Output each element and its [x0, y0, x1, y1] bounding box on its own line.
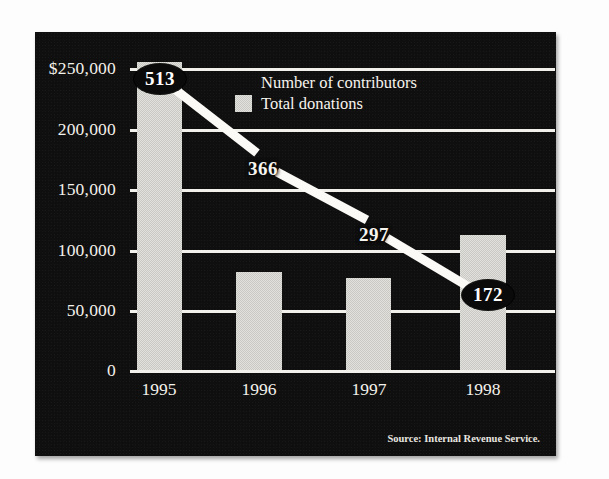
- plot-area: $250,000 200,000 150,000 100,000 50,000 …: [35, 32, 556, 456]
- legend-label-contributors: Number of contributors: [261, 72, 417, 93]
- chart-panel: $250,000 200,000 150,000 100,000 50,000 …: [35, 32, 556, 456]
- y-axis-tick-0: 0: [35, 360, 116, 381]
- bar-1996: [236, 272, 282, 370]
- y-axis-tick-250000: $250,000: [35, 58, 116, 79]
- y-axis-tick-50000: 50,000: [35, 300, 116, 321]
- point-label-1998: 172: [462, 280, 514, 310]
- legend-swatch-donations: [235, 95, 252, 112]
- legend-entry-donations: Total donations: [235, 93, 417, 114]
- x-axis-tick-1997: 1997: [324, 379, 414, 400]
- legend-spacer: [235, 74, 252, 91]
- gridline-150000: [130, 189, 555, 192]
- bar-1997: [346, 278, 391, 370]
- y-axis-tick-200000: 200,000: [35, 119, 116, 140]
- y-axis-tick-100000: 100,000: [35, 240, 116, 261]
- gridline-0: [130, 370, 555, 373]
- page-canvas: $250,000 200,000 150,000 100,000 50,000 …: [0, 0, 609, 479]
- point-label-1997: 297: [359, 224, 389, 246]
- x-axis-tick-1995: 1995: [114, 379, 204, 400]
- legend-entry-contributors: Number of contributors: [235, 72, 417, 93]
- y-axis-tick-150000: 150,000: [35, 179, 116, 200]
- line-segment-1996-1997: [277, 172, 367, 220]
- gridline-200000: [130, 129, 555, 132]
- point-label-1996: 366: [248, 158, 278, 180]
- bar-1995: [137, 62, 182, 370]
- point-label-1995: 513: [134, 64, 186, 94]
- gridline-250000: [130, 68, 555, 71]
- x-axis-tick-1996: 1996: [214, 379, 304, 400]
- legend-label-donations: Total donations: [261, 93, 363, 114]
- x-axis-tick-1998: 1998: [438, 379, 528, 400]
- source-note: Source: Internal Revenue Service.: [387, 433, 540, 444]
- chart-legend: Number of contributors Total donations: [235, 72, 417, 114]
